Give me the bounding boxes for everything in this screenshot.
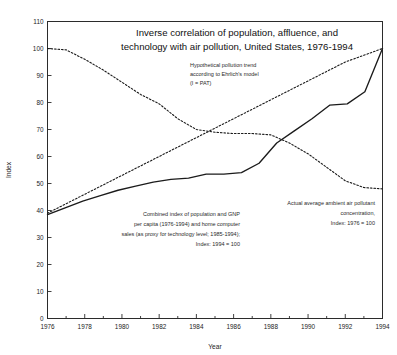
chart-background — [0, 0, 397, 355]
x-tick-label: 1976 — [40, 323, 55, 330]
y-tick-label: 30 — [36, 234, 44, 241]
x-axis-title: Year — [208, 343, 222, 350]
x-tick-label: 1986 — [227, 323, 242, 330]
x-tick-label: 1990 — [301, 323, 316, 330]
y-axis-title: Index — [5, 161, 12, 178]
y-tick-label: 100 — [33, 45, 44, 52]
chart-figure: 0102030405060708090100110 19761978198019… — [0, 0, 397, 355]
annotation-combined-line-4: Index: 1994 = 100 — [196, 241, 240, 247]
annotation-combined-line-3: sales (as proxy for technology level; 19… — [121, 231, 240, 237]
x-tick-label: 1988 — [264, 323, 279, 330]
y-tick-label: 90 — [36, 72, 44, 79]
y-tick-label: 10 — [36, 288, 44, 295]
y-tick-label: 80 — [36, 99, 44, 106]
chart-svg: 0102030405060708090100110 19761978198019… — [0, 0, 397, 355]
annotation-actual-line-2: concentration, — [340, 210, 375, 216]
annotation-combined-line-2: per capita (1976-1994) and home computer — [134, 221, 240, 227]
x-tick-label: 1992 — [338, 323, 353, 330]
annotation-combined-line-1: Combined index of population and GNP — [143, 211, 240, 217]
chart-title-line-1: Inverse correlation of population, afflu… — [136, 27, 338, 38]
x-tick-label: 1994 — [375, 323, 390, 330]
y-tick-label: 70 — [36, 126, 44, 133]
y-tick-label: 60 — [36, 153, 44, 160]
annotation-hypothetical-line-3: (I = PAT) — [190, 80, 212, 86]
x-tick-label: 1982 — [152, 323, 167, 330]
y-tick-label: 110 — [33, 18, 44, 25]
annotation-hypothetical-line-1: Hypothetical pollution trend — [190, 62, 256, 68]
annotation-actual-line-1: Actual average ambient air pollutant — [287, 200, 375, 206]
x-tick-label: 1978 — [78, 323, 93, 330]
x-tick-label: 1980 — [115, 323, 130, 330]
annotation-actual-line-3: Index: 1976 = 100 — [331, 220, 375, 226]
y-tick-label: 40 — [36, 207, 44, 214]
annotation-hypothetical-line-2: according to Ehrlich's model — [190, 71, 259, 77]
y-tick-label: 50 — [36, 180, 44, 187]
x-tick-label: 1984 — [189, 323, 204, 330]
y-tick-label: 20 — [36, 261, 44, 268]
y-tick-label: 0 — [40, 315, 44, 322]
chart-title-line-2: technology with air pollution, United St… — [121, 41, 354, 52]
